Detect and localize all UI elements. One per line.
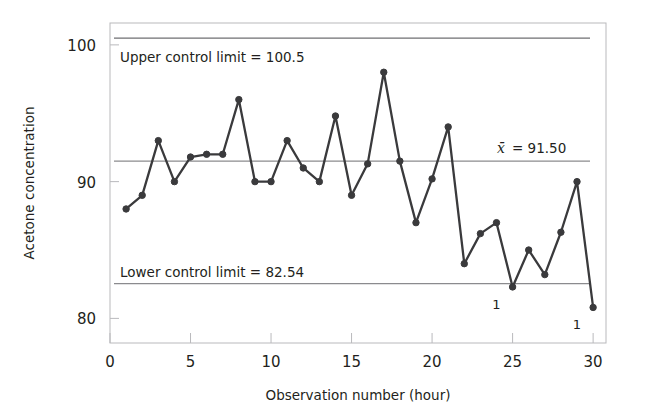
data-point-19: [413, 219, 419, 225]
violation-marker-24: 1: [492, 297, 500, 312]
data-point-29: [574, 178, 580, 184]
data-point-5: [187, 154, 193, 160]
x-tick-label-30: 30: [584, 353, 603, 371]
y-axis-title: Acetone concentration: [21, 107, 37, 260]
x-tick-label-15: 15: [342, 353, 361, 371]
data-point-9: [252, 178, 258, 184]
data-point-20: [429, 176, 435, 182]
x-tick-label-5: 5: [186, 353, 196, 371]
data-point-10: [268, 178, 274, 184]
data-point-4: [171, 178, 177, 184]
data-point-11: [284, 137, 290, 143]
data-point-12: [300, 165, 306, 171]
data-point-14: [332, 113, 338, 119]
data-point-21: [445, 124, 451, 130]
data-point-7: [220, 151, 226, 157]
lower-control-limit-label: Lower control limit = 82.54: [120, 264, 304, 280]
x-tick-label-25: 25: [503, 353, 522, 371]
x-axis-title: Observation number (hour): [266, 387, 451, 403]
data-point-3: [155, 137, 161, 143]
center-line-symbol: x̄: [497, 140, 505, 156]
center-line-value: = 91.50: [512, 140, 566, 156]
data-point-28: [558, 229, 564, 235]
y-tick-label-100: 100: [67, 37, 96, 55]
data-point-18: [397, 158, 403, 164]
control-chart: 8090100 051015202530 11 Upper control li…: [0, 0, 645, 414]
data-point-23: [477, 230, 483, 236]
data-point-15: [348, 192, 354, 198]
data-point-6: [203, 151, 209, 157]
x-tick-label-0: 0: [105, 353, 115, 371]
data-point-8: [236, 96, 242, 102]
chart-background: [0, 0, 645, 414]
data-point-30: [590, 304, 596, 310]
data-point-24: [493, 219, 499, 225]
y-tick-label-90: 90: [77, 174, 96, 192]
data-point-13: [316, 178, 322, 184]
data-point-27: [542, 271, 548, 277]
data-point-25: [509, 284, 515, 290]
y-tick-label-80: 80: [77, 310, 96, 328]
data-point-16: [364, 161, 370, 167]
data-point-1: [123, 206, 129, 212]
data-point-2: [139, 192, 145, 198]
violation-marker-29: 1: [573, 317, 581, 332]
chart-svg: 8090100 051015202530 11 Upper control li…: [0, 0, 645, 414]
data-point-17: [381, 69, 387, 75]
data-point-26: [526, 247, 532, 253]
upper-control-limit-label: Upper control limit = 100.5: [120, 49, 305, 65]
data-point-22: [461, 260, 467, 266]
x-tick-label-20: 20: [423, 353, 442, 371]
x-tick-label-10: 10: [261, 353, 280, 371]
